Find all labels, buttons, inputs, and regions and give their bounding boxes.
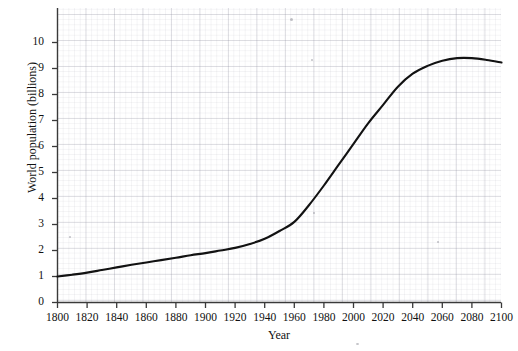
x-tick-label-2100: 2100 — [482, 311, 518, 323]
scan-speck — [69, 236, 71, 238]
y-axis-title: World population (billions) — [25, 33, 40, 223]
y-tick-label-2: 2 — [14, 243, 44, 255]
x-axis-title: Year — [257, 328, 301, 343]
y-tick-label-0: 0 — [14, 295, 44, 307]
scan-speck — [437, 241, 439, 243]
plot-grid-background — [57, 8, 501, 302]
y-tick-label-1: 1 — [14, 269, 44, 281]
scan-speck — [311, 59, 313, 61]
scan-speck — [356, 343, 359, 345]
scan-speck — [313, 212, 315, 214]
population-growth-chart: 0 1 2 3 4 5 6 7 8 9 10 1800 1820 1840 18… — [0, 0, 518, 351]
x-tick-marks — [58, 303, 502, 309]
scan-speck — [290, 18, 293, 21]
